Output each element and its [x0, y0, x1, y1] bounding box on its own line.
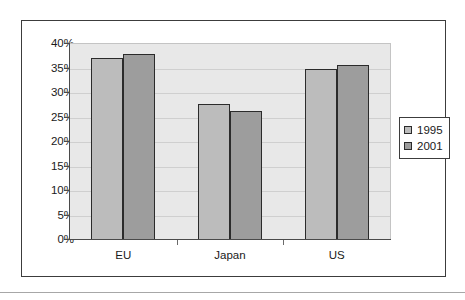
- x-axis-category-label-eu: EU: [115, 249, 131, 261]
- bar-eu-2001: [123, 54, 155, 240]
- x-axis-line: [70, 239, 391, 240]
- legend-label-1995: 1995: [417, 124, 443, 136]
- legend-entry-2001[interactable]: 2001: [404, 138, 443, 154]
- bar-japan-2001: [230, 111, 262, 240]
- bar-japan-1995: [198, 104, 230, 240]
- legend-swatch-2001: [404, 142, 412, 150]
- y-axis-tick-mark: [64, 92, 70, 93]
- x-axis-category-label-japan: Japan: [214, 249, 245, 261]
- x-axis-tick-mark: [283, 240, 284, 245]
- y-axis-tick-mark: [64, 141, 70, 142]
- bar-us-2001: [337, 65, 369, 240]
- bar-us-1995: [305, 69, 337, 240]
- y-axis-tick-mark: [64, 215, 70, 216]
- y-axis-tick-mark: [64, 166, 70, 167]
- legend-entry-1995[interactable]: 1995: [404, 122, 443, 138]
- page-separator-rule: [0, 292, 465, 293]
- chart-frame: 0%5%10%15%20%25%30%35%40% 19952001 EUJap…: [21, 20, 446, 277]
- legend-swatch-1995: [404, 126, 412, 134]
- chart-legend: 19952001: [399, 117, 450, 159]
- y-axis-tick-mark: [64, 68, 70, 69]
- x-axis-category-label-us: US: [329, 249, 345, 261]
- plot-area: [70, 43, 391, 240]
- y-axis-tick-mark: [64, 43, 70, 44]
- bar-eu-1995: [91, 58, 123, 240]
- legend-label-2001: 2001: [417, 140, 443, 152]
- x-axis-tick-mark: [177, 240, 178, 245]
- y-axis-tick-mark: [64, 117, 70, 118]
- y-axis-tick-mark: [64, 190, 70, 191]
- y-axis-tick-mark: [64, 239, 70, 240]
